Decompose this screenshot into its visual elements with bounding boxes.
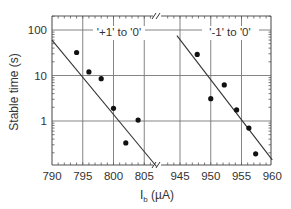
fit-line: [52, 40, 157, 166]
x-tick-label: 795: [73, 170, 92, 182]
y-tick-label: 100: [28, 24, 47, 36]
data-point: [74, 50, 79, 55]
y-tick-label: 10: [34, 70, 47, 82]
data-point: [246, 125, 251, 130]
x-axis-label: Ib (µA): [140, 188, 174, 204]
data-points: [74, 50, 258, 157]
data-point: [86, 69, 91, 74]
data-point: [123, 140, 128, 145]
x-tick-label: 805: [135, 170, 154, 182]
chart-canvas: 110100790795800805945950955960 Stable ti…: [0, 0, 291, 209]
data-point: [253, 151, 258, 156]
data-point: [136, 117, 141, 122]
data-point: [234, 107, 239, 112]
axis-ticks: 110100790795800805945950955960: [28, 16, 282, 182]
y-tick-label: 1: [41, 115, 47, 127]
data-point: [99, 76, 104, 81]
x-tick-label: 950: [201, 170, 220, 182]
x-tick-label: 960: [263, 170, 282, 182]
data-point: [208, 96, 213, 101]
x-tick-label: 955: [232, 170, 251, 182]
y-axis-label: Stable time (s): [7, 53, 21, 130]
panel-label-plus1: '+1' to '0': [97, 26, 141, 38]
x-tick-label: 945: [170, 170, 189, 182]
stable-time-chart: 110100790795800805945950955960 Stable ti…: [0, 0, 291, 209]
data-point: [111, 106, 116, 111]
x-axis-label-unit: (µA): [148, 188, 174, 202]
fit-lines: [52, 36, 272, 167]
x-tick-label: 790: [42, 170, 61, 182]
panel-label-minus1: '-1' to '0': [209, 26, 250, 38]
fit-line: [177, 36, 272, 160]
data-point: [222, 82, 227, 87]
data-point: [195, 52, 200, 57]
x-tick-label: 800: [104, 170, 123, 182]
